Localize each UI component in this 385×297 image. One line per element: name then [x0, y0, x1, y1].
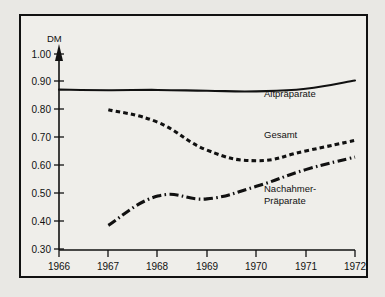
y-tick-label: 0.30 [32, 244, 52, 255]
y-tick-label: 0.50 [32, 188, 52, 199]
series-label-gesamt: Gesamt [264, 129, 298, 140]
x-tick-label: 1970 [245, 261, 268, 272]
line-chart: DM 1.00 0.90 0.80 0.70 0.60 0.50 0.40 0.… [21, 16, 366, 276]
chart-frame: DM 1.00 0.90 0.80 0.70 0.60 0.50 0.40 0.… [19, 14, 368, 278]
x-tick-label: 1972 [344, 261, 366, 272]
series-label-nachahmer-line1: Nachahmer- [264, 183, 316, 194]
y-tick-label: 0.60 [32, 160, 52, 171]
series-line-nachahmer-praeparate [108, 157, 355, 225]
y-tick-label: 0.70 [32, 132, 52, 143]
y-tick-label: 0.90 [32, 76, 52, 87]
series-line-gesamt [108, 110, 355, 161]
series-label-nachahmer-line2: Präparate [264, 195, 306, 206]
x-tick-label: 1971 [295, 261, 318, 272]
y-tick-label: 0.80 [32, 104, 52, 115]
y-axis [55, 44, 63, 250]
x-tick-label: 1968 [146, 261, 169, 272]
x-tick-label: 1969 [196, 261, 219, 272]
x-tick-label: 1966 [48, 261, 71, 272]
y-tick-label: 1.00 [32, 49, 52, 60]
x-tick-label: 1967 [97, 261, 120, 272]
x-tick-group: 1966 1967 1968 1969 1970 1971 1972 [48, 250, 366, 272]
y-axis-unit-label: DM [47, 33, 62, 44]
y-tick-label: 0.40 [32, 216, 52, 227]
series-label-altpraeparate: Altpräparate [264, 88, 316, 99]
y-axis-arrow-icon [55, 44, 63, 61]
